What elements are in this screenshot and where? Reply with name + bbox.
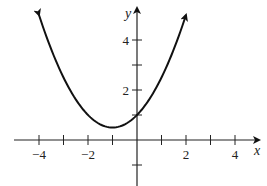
y-tick-label: 4 [123, 33, 130, 48]
x-tick-label: 2 [183, 147, 190, 162]
parabola-curve [39, 15, 186, 128]
x-axis-ticks: −4−224 [32, 135, 239, 162]
y-axis-ticks: 24 [123, 33, 143, 165]
x-tick-label: −2 [81, 147, 95, 162]
x-tick-label: 4 [232, 147, 239, 162]
x-axis-label: x [253, 143, 261, 158]
y-tick-label: 2 [123, 83, 130, 98]
y-axis-label: y [123, 6, 132, 21]
x-tick-label: −4 [32, 147, 46, 162]
parabola-graph: −4−224 x 24 y [0, 0, 267, 186]
y-axis: 24 y [123, 6, 143, 186]
